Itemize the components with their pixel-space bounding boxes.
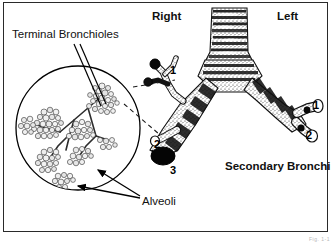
figure-caption: Fig. 1-1 [309, 236, 330, 242]
trachea [205, 8, 253, 62]
bronchial-tree-figure: Terminal Bronchioles Alveoli Right Left … [0, 0, 334, 242]
right-lower-number: 3 [170, 165, 176, 176]
right-middle-number: 2 [154, 139, 160, 150]
left-lower-number: 2 [306, 130, 312, 141]
terminal-bronchioles-label: Terminal Bronchioles [12, 29, 119, 41]
alveoli-label: Alveoli [142, 196, 176, 208]
right-main-bronchus [150, 78, 218, 165]
right-side-label: Right [152, 11, 181, 23]
right-upper-lobe-bronchus [144, 58, 183, 101]
left-side-label: Left [277, 11, 298, 23]
right-upper-number: 1 [170, 65, 176, 76]
trachea-and-bronchi [144, 8, 323, 165]
alveoli-magnifier-lens [16, 66, 140, 190]
left-upper-number: 1 [313, 100, 319, 111]
secondary-bronchi-label: Secondary Bronchi [225, 161, 330, 173]
